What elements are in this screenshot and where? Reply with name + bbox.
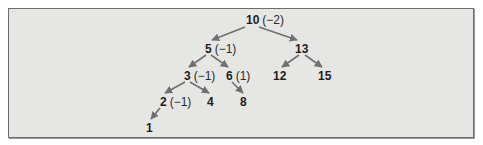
node-3: 3(−1) [184, 69, 215, 81]
node-balance: (1) [236, 69, 251, 83]
node-5: 5(−1) [205, 42, 236, 54]
node-key: 1 [146, 121, 153, 135]
node-4: 4 [207, 95, 214, 107]
node-key: 6 [226, 69, 233, 83]
node-key: 12 [273, 69, 286, 83]
edge-10-to-13 [259, 27, 297, 40]
edge-13-to-12 [282, 55, 299, 67]
edge-10-to-5 [212, 27, 245, 40]
node-balance: (−1) [215, 42, 237, 56]
node-10: 10(−2) [246, 13, 284, 25]
node-key: 3 [184, 69, 191, 83]
edge-13-to-15 [305, 55, 322, 67]
edge-5-to-3 [189, 55, 206, 67]
edge-3-to-4 [190, 82, 209, 93]
node-15: 15 [318, 69, 331, 81]
node-balance: (−1) [194, 69, 216, 83]
node-key: 15 [318, 69, 331, 83]
node-key: 8 [240, 95, 247, 109]
node-8: 8 [240, 95, 247, 107]
edge-5-to-6 [211, 55, 228, 67]
node-key: 5 [205, 42, 212, 56]
node-12: 12 [273, 69, 286, 81]
edge-6-to-8 [232, 82, 243, 93]
node-1: 1 [146, 121, 153, 133]
node-6: 6(1) [226, 69, 250, 81]
node-13: 13 [295, 42, 308, 54]
edge-2-to-1 [151, 108, 160, 119]
node-balance: (−1) [170, 95, 192, 109]
node-key: 2 [160, 95, 167, 109]
node-key: 13 [295, 42, 308, 56]
node-key: 4 [207, 95, 214, 109]
node-balance: (−2) [262, 13, 284, 27]
node-2: 2(−1) [160, 95, 191, 107]
edge-3-to-2 [165, 82, 185, 93]
node-key: 10 [246, 13, 259, 27]
